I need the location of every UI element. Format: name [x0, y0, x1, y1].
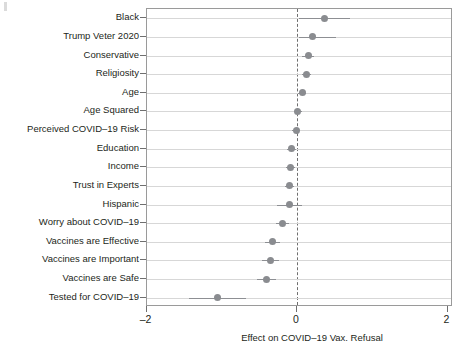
gridline — [147, 74, 451, 75]
data-point[interactable] — [321, 15, 328, 22]
gridline — [147, 223, 451, 224]
gridline — [147, 167, 451, 168]
gridline — [147, 56, 451, 57]
y-axis-tick-label: Vaccines are Important — [42, 254, 139, 264]
y-axis-tick — [140, 148, 146, 149]
y-axis-tick — [140, 259, 146, 260]
error-bar — [299, 37, 336, 38]
y-axis-tick-label: Trump Veter 2020 — [63, 31, 139, 41]
y-axis-tick — [140, 17, 146, 18]
x-axis-tick — [447, 306, 448, 312]
y-axis-tick-label: Black — [116, 12, 139, 22]
data-point[interactable] — [287, 164, 294, 171]
y-axis-tick-label: Worry about COVID–19 — [39, 217, 139, 227]
gridline — [147, 149, 451, 150]
x-axis-tick-label: –2 — [126, 313, 166, 325]
y-axis-tick — [140, 110, 146, 111]
y-axis-tick-label: Income — [108, 161, 139, 171]
data-point[interactable] — [286, 201, 293, 208]
y-axis-tick — [140, 297, 146, 298]
data-point[interactable] — [305, 52, 312, 59]
x-axis-tick — [296, 306, 297, 312]
x-axis-tick — [146, 306, 147, 312]
gridline — [147, 242, 451, 243]
data-point[interactable] — [267, 257, 274, 264]
y-axis-tick — [140, 36, 146, 37]
y-axis-tick-label: Age Squared — [84, 105, 139, 115]
data-point[interactable] — [279, 220, 286, 227]
y-axis-tick — [140, 278, 146, 279]
x-axis-tick-label: 2 — [427, 313, 467, 325]
data-point[interactable] — [214, 294, 221, 301]
y-axis-tick-label: Hispanic — [103, 199, 139, 209]
data-point[interactable] — [286, 182, 293, 189]
y-axis-tick — [140, 204, 146, 205]
gridline — [147, 260, 451, 261]
y-axis-tick — [140, 92, 146, 93]
y-axis-tick-label: Age — [122, 87, 139, 97]
x-axis-title-text: Effect on COVID–19 Vax. Refusal — [241, 332, 383, 343]
data-point[interactable] — [288, 145, 295, 152]
data-point[interactable] — [269, 238, 276, 245]
x-axis-tick-label: 0 — [276, 313, 316, 325]
gridline — [147, 279, 451, 280]
y-axis-tick-label: Trust in Experts — [73, 180, 139, 190]
y-axis-tick-label: Conservative — [84, 50, 139, 60]
data-point[interactable] — [263, 276, 270, 283]
data-point[interactable] — [294, 108, 301, 115]
y-axis-tick-label: Vaccines are Effective — [46, 236, 139, 246]
y-axis-tick-label: Religiosity — [96, 68, 139, 78]
y-axis-tick — [140, 222, 146, 223]
y-axis-tick-label: Tested for COVID–19 — [49, 292, 139, 302]
x-axis-title: Effect on COVID–19 Vax. Refusal — [0, 332, 472, 343]
y-axis-tick-label: Perceived COVID–19 Risk — [27, 124, 139, 134]
y-axis-tick — [140, 55, 146, 56]
y-axis-tick — [140, 185, 146, 186]
y-axis-tick — [140, 73, 146, 74]
y-axis-tick-label: Vaccines are Safe — [63, 273, 139, 283]
y-axis-tick — [140, 166, 146, 167]
y-axis-category-labels: BlackTrump Veter 2020ConservativeReligio… — [0, 8, 139, 306]
data-point[interactable] — [303, 71, 310, 78]
y-axis-tick-label: Education — [97, 143, 139, 153]
plot-area — [146, 8, 452, 306]
data-point[interactable] — [299, 89, 306, 96]
y-axis-tick — [140, 129, 146, 130]
gridline — [147, 186, 451, 187]
coefficient-plot-figure: BlackTrump Veter 2020ConservativeReligio… — [0, 0, 472, 352]
data-point[interactable] — [309, 33, 316, 40]
y-axis-tick — [140, 241, 146, 242]
data-point[interactable] — [293, 127, 300, 134]
